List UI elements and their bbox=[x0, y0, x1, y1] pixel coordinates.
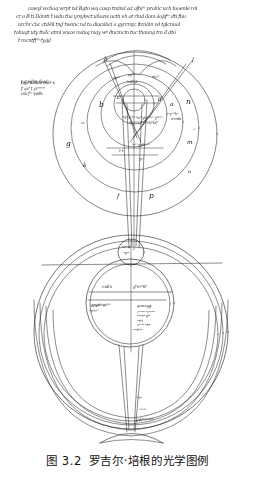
eye-left-text-block: уᵒyᵗғᵗᵒᵒ ɡ ᵇᵗᵇᵒ ᵇtᵒł ғᵇᵒᵒᵒᵐᶜᵇᵒ ᵒɡᵒᵒcᵐ bbox=[92, 303, 109, 311]
figure-page: cowyl wchoq wrpt nd Bgto wq coup tmind a… bbox=[0, 0, 255, 477]
chord-label-right: ɡᵇmᶜᵒŧtᵒ bbox=[133, 285, 147, 289]
upper-annotation: cn bbox=[81, 122, 84, 126]
manuscript-line: tohugt uty thđc atml wuce mduq mąy wᵖ ðn… bbox=[14, 30, 184, 35]
circle-letter-o: o bbox=[188, 168, 191, 174]
upper-annotation: ғᵒcnbt bbox=[171, 117, 181, 121]
circle-letter-b: b bbox=[99, 100, 104, 109]
circle-letter-k: k bbox=[83, 161, 87, 168]
figure-title: 罗吉尔·培根的光学图例 bbox=[89, 454, 209, 468]
circle-letter-g: g bbox=[66, 139, 71, 148]
lower-chords bbox=[42, 263, 222, 300]
eye-list-item: ᵒᵒᶜᵒłłᵒᵐᵐ bbox=[133, 329, 151, 333]
circle-letter-p: p bbox=[149, 191, 154, 200]
margin-note-block: t̥ cᵗ wfcn–fȧcd ńgḍ t́cbbm ṭcḍt–ṣ ţᵗ ącᵗ… bbox=[21, 80, 55, 94]
arc-label: ᵗᵒᵒcᵇ bbox=[136, 396, 142, 400]
circle-letter-m: m bbox=[187, 138, 193, 145]
small-circle-text: ᵒᵒɡᵒᵐ bbox=[123, 252, 129, 256]
optics-diagram-svg bbox=[0, 0, 255, 447]
circle-letter-h: h bbox=[104, 55, 108, 62]
eye-left-line: ᵒɡᵒᵒcᵐ bbox=[89, 309, 106, 313]
margin-note-line: ńgḍ t́cbbm ṭcḍt–ṣ bbox=[21, 81, 55, 86]
manuscript-line: cr a B tí Dảmtí t̀ wdu tha yrsytect uñoz… bbox=[16, 14, 186, 19]
upper-annotation: ᵗ ᵒcnᵒᵐcf yᵇᵒncᵃbtᵗ bbox=[127, 121, 157, 125]
bottom-lens bbox=[100, 434, 163, 444]
arc-label: ᵒᵒᵐᵒᵇᵗ bbox=[139, 408, 146, 412]
circle-letter-a: a bbox=[170, 100, 174, 107]
upper-annotation: ᵒcᵗ ᵗ yᵒdtᵒ ᵒᵐ bbox=[132, 143, 150, 147]
figure-image bbox=[0, 0, 255, 447]
upper-annotation: ęyᵐᵐᵐᵐ bbox=[128, 73, 140, 77]
figure-caption: 图 3.2罗吉尔·培根的光学图例 bbox=[0, 452, 255, 468]
manuscript-line: t̀ mcntff ᵐřyġḍ bbox=[18, 38, 188, 43]
upper-annotation: spᵒᵐ bbox=[113, 76, 120, 80]
small-circle-text: тᵒᶜᵒнᵒ bbox=[122, 246, 130, 250]
circle-letter-n: n bbox=[186, 97, 191, 106]
chord-label-left: mdtn bbox=[102, 285, 112, 289]
eye-right-list: cᵒᵐᵐᶜᵐ ᵗᵒcᵒł cᵒᵐᵐᵐ ᵗcᵒɡᵒ cᵒᵐᵐᵐ ᵒᵒcᵐᵐᵒᵐ ᵒ… bbox=[137, 305, 155, 326]
margin-note-line: ctà fᵗᵒ ᵒpṣłłı– bbox=[21, 92, 55, 97]
eye-list-item: ᵒᵇᵒᵐtᵒᵒᵗ ɡᵇᵇ bbox=[137, 315, 155, 319]
upper-annotation: tᵒ tᵗ bbox=[119, 150, 123, 154]
circle-letter-c: c bbox=[117, 93, 120, 100]
figure-number: 图 3.2 bbox=[46, 454, 82, 468]
manuscript-line: cowyl wchoq wrpt nd Bgto wq coup tmind a… bbox=[28, 6, 198, 11]
ray-lines-upper bbox=[104, 60, 192, 142]
circle-letter-f: f bbox=[117, 192, 119, 199]
circle-letter-l: l bbox=[192, 56, 194, 63]
eye-list-item: cᵒᵒᵐᵐ ᵗᵗ ŧᵇtᵒ bbox=[137, 324, 155, 328]
manuscript-line: urch́r cbc ctdẽíl tnd̥ twànc nd to diợcá… bbox=[18, 22, 188, 27]
upper-annotation: tcdcyt– bbox=[127, 80, 139, 84]
upper-annotation: ᵒᶜ bbox=[193, 128, 195, 132]
eye-list-item: cᵒᵐᵐᵐ ᵗcᵒɡᵒ bbox=[137, 306, 155, 310]
upper-annotation: ᵒycᵗ bbox=[139, 158, 144, 162]
upper-annotation: dyᵐᵒ bbox=[152, 75, 159, 79]
arc-label: ɡŵᵇᶜᵒᵇᵐᶜᵇᵇ bbox=[136, 418, 153, 422]
circle-letter-d: d bbox=[158, 95, 162, 102]
manuscript-top-block: cowyl wchoq wrpt nd Bgto wq coup tmind a… bbox=[26, 6, 196, 31]
upper-crown-arcs bbox=[96, 50, 176, 74]
